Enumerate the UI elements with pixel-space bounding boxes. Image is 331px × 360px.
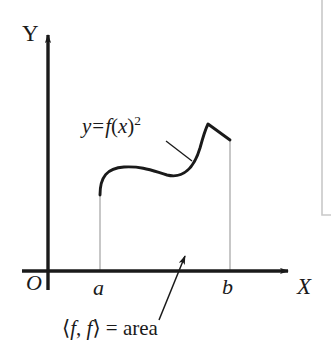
area-word: area <box>123 316 158 340</box>
area-open-angle-bracket: ⟨ <box>62 316 70 340</box>
curve-equation-label: y=f(x)2 <box>82 114 141 137</box>
curve-eq-variable: y <box>82 114 91 138</box>
curve-eq-argument: x <box>118 114 127 138</box>
area-equals: = <box>106 316 118 340</box>
x-axis-label: X <box>297 275 311 298</box>
diagram-canvas <box>0 0 331 360</box>
area-label-arrow <box>159 256 185 320</box>
inner-product-area-label: ⟨f, f⟩ = area <box>62 318 158 339</box>
area-close-angle-bracket: ⟩ <box>92 316 100 340</box>
tick-label-b: b <box>222 276 233 298</box>
origin-label: O <box>26 272 42 294</box>
curve-eq-exponent: 2 <box>134 113 141 128</box>
y-axis-label: Y <box>22 22 39 45</box>
function-square-area-diagram: Y X O a b y=f(x)2 ⟨f, f⟩ = area <box>0 0 331 360</box>
tick-label-a: a <box>93 277 104 299</box>
area-comma: , <box>76 316 81 340</box>
curve-eq-equals: = <box>91 114 105 138</box>
curve-eq-open-paren: ( <box>111 114 118 138</box>
page-frame-artifact <box>322 0 331 215</box>
curve-label-leader-line <box>166 141 192 161</box>
